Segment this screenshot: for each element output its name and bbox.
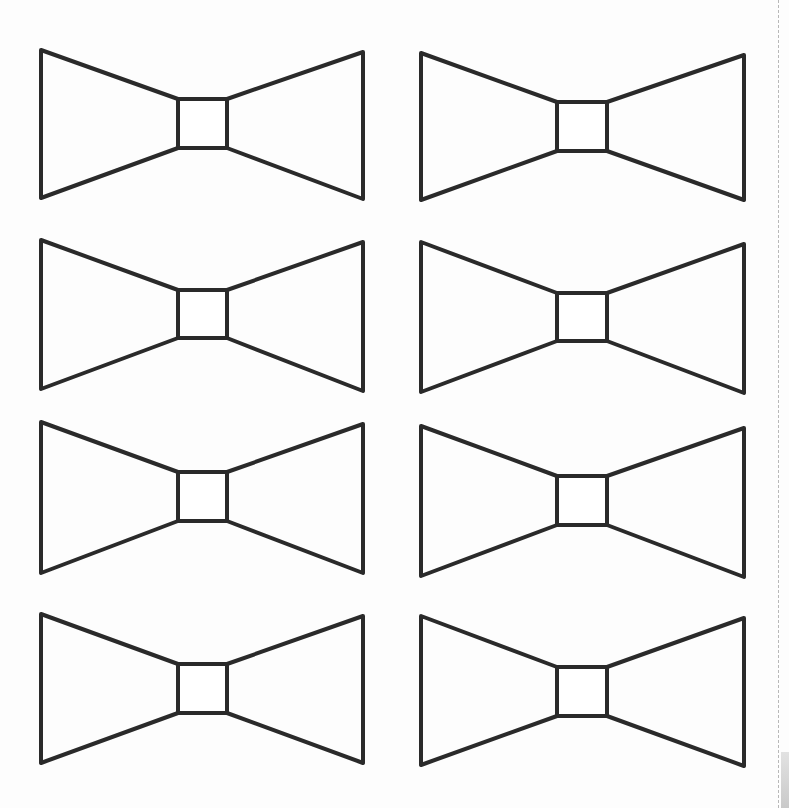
printable-page: Bow tie cut-out template — [0, 0, 789, 808]
page-edge-shadow — [781, 752, 789, 808]
right-wing — [607, 618, 744, 766]
bow-tie-icon — [0, 0, 789, 808]
bow-tie-shape — [0, 0, 789, 808]
center-knot — [557, 667, 607, 716]
left-wing — [421, 616, 557, 765]
dashed-cut-line — [778, 0, 779, 808]
